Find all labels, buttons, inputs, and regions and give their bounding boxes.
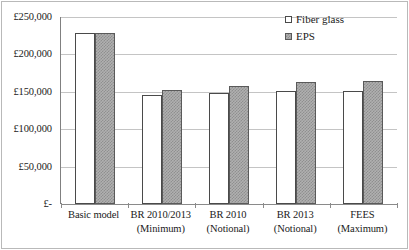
bar-eps	[296, 82, 316, 204]
legend-swatch-icon	[285, 33, 292, 40]
y-axis-tick-labels: £250,000£200,000£150,000£100,000£50,000£…	[0, 0, 56, 250]
x-axis-category-label: BR 2010(Notional)	[194, 208, 261, 235]
bar-fiber-glass	[276, 91, 296, 204]
bar-eps	[95, 33, 115, 204]
x-axis-category-label: BR 2010/2013(Minimum)	[127, 208, 194, 235]
x-axis-category-label: FEES(Maximum)	[329, 208, 396, 235]
x-axis-category-labels: Basic modelBR 2010/2013(Minimum)BR 2010(…	[60, 208, 396, 250]
bar-eps	[363, 81, 383, 204]
category-label-line-2: (Minimum)	[127, 222, 194, 236]
y-axis-tick-label: £-	[43, 199, 52, 209]
bar-fiber-glass	[75, 33, 95, 204]
bar-eps	[162, 90, 182, 204]
category-label-line-2: (Notional)	[262, 222, 329, 236]
y-axis-tick-label: £150,000	[13, 87, 52, 97]
legend-label: EPS	[296, 31, 315, 42]
legend-item: EPS	[285, 29, 393, 44]
x-axis-baseline	[61, 204, 397, 205]
bar-fiber-glass	[142, 95, 162, 204]
legend-label: Fiber glass	[296, 14, 344, 25]
category-label-line-1: Basic model	[68, 209, 119, 220]
category-label-line-1: BR 2013	[277, 209, 314, 220]
y-axis-tick-label: £50,000	[19, 162, 52, 172]
category-label-line-2: (Notional)	[194, 222, 261, 236]
x-axis-category-label: BR 2013(Notional)	[262, 208, 329, 235]
category-label-line-1: FEES	[350, 209, 374, 220]
y-axis-tick-label: £100,000	[13, 124, 52, 134]
bar-eps	[229, 86, 249, 204]
category-label-line-1: BR 2010	[210, 209, 247, 220]
bar-chart: £250,000£200,000£150,000£100,000£50,000£…	[0, 0, 409, 250]
category-label-line-1: BR 2010/2013	[131, 209, 191, 220]
bar-fiber-glass	[343, 91, 363, 204]
bar-fiber-glass	[209, 93, 229, 204]
y-axis-tick-label: £250,000	[13, 12, 52, 22]
legend-swatch-icon	[285, 16, 292, 23]
chart-legend: Fiber glassEPS	[285, 12, 393, 46]
x-axis-category-label: Basic model	[60, 208, 127, 222]
legend-item: Fiber glass	[285, 12, 393, 27]
x-axis-tick	[397, 203, 398, 208]
y-axis-tick-label: £200,000	[13, 49, 52, 59]
category-label-line-2: (Maximum)	[329, 222, 396, 236]
